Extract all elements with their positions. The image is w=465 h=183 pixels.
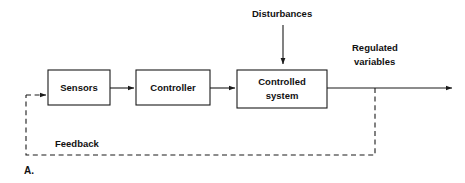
block-controlled-system[interactable]: Controlled system (237, 70, 327, 108)
regulated-variables-label-line1: Regulated (352, 42, 398, 53)
sensors-label: Sensors (60, 82, 98, 93)
figure-label: A. (24, 165, 34, 176)
controlled-system-label-line2: system (266, 90, 299, 101)
disturbances-group: Disturbances (252, 8, 312, 64)
block-diagram-figure: Disturbances Sensors Controller Controll… (0, 0, 465, 183)
diagram-canvas: Disturbances Sensors Controller Controll… (0, 0, 465, 183)
regulated-variables-group: Regulated variables (327, 42, 452, 88)
regulated-variables-label-line2: variables (354, 56, 395, 67)
disturbances-label: Disturbances (252, 8, 312, 19)
feedback-label: Feedback (55, 138, 100, 149)
controller-label: Controller (150, 82, 196, 93)
controlled-system-label-line1: Controlled (258, 76, 306, 87)
block-sensors[interactable]: Sensors (48, 70, 110, 105)
block-controller[interactable]: Controller (136, 70, 210, 105)
